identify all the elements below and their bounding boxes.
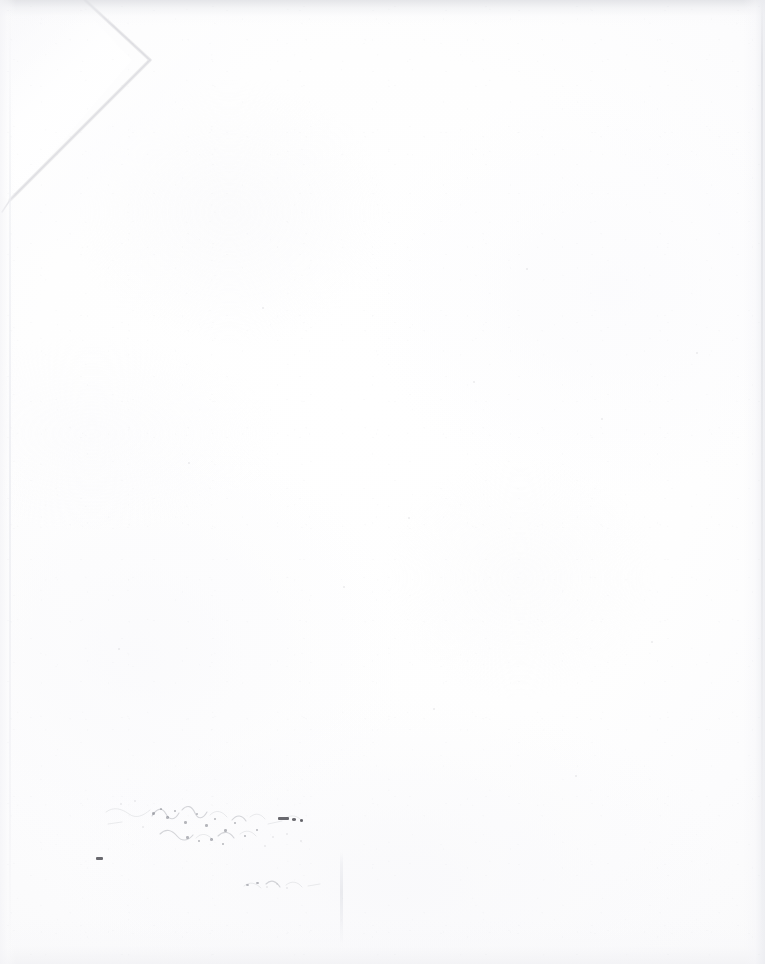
scan-grain-overlay [0, 0, 765, 964]
scanned-page [0, 0, 765, 964]
